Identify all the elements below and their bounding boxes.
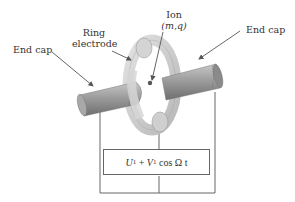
ion-label-line1: Ion: [159, 9, 189, 20]
power-supply-box: U1 + V1 cos Ω t: [103, 149, 210, 175]
ring-electrode-label: Ring electrode: [72, 27, 116, 49]
plus-sign: +: [136, 157, 147, 168]
ion-label-line2: (m,q): [159, 20, 189, 31]
u-symbol: U: [125, 157, 132, 168]
ion-label: Ion (m,q): [159, 9, 189, 31]
cos-term: cos Ω t: [156, 157, 187, 168]
end-cap-left-label: End cap: [13, 44, 52, 55]
ring-label-line2: electrode: [72, 38, 116, 49]
end-cap-right-label: End cap: [246, 24, 285, 35]
ring-label-line1: Ring: [72, 27, 116, 38]
ion-particle: [148, 81, 152, 85]
